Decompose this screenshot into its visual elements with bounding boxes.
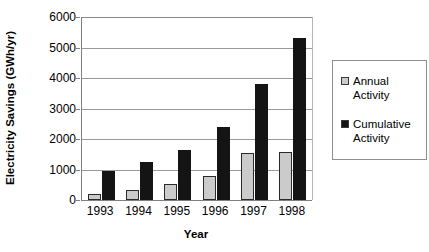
- legend-entry: CumulativeActivity: [341, 117, 427, 145]
- bar-group: [203, 17, 230, 200]
- y-tick-label: 6000: [2, 10, 76, 24]
- x-axis-tick-labels: 199319941995199619971998: [81, 204, 311, 222]
- y-tick-label: 4000: [2, 71, 76, 85]
- bar-group: [279, 17, 306, 200]
- bar-cumulative-1994: [140, 162, 153, 200]
- bar-annual-1998: [279, 152, 292, 200]
- legend-label: AnnualActivity: [353, 74, 389, 102]
- y-tick-mark: [76, 17, 80, 18]
- bar-group: [164, 17, 191, 200]
- bar-cumulative-1995: [178, 150, 191, 200]
- x-tick-label: 1996: [196, 204, 234, 218]
- x-tick-label: 1998: [273, 204, 311, 218]
- bar-cumulative-1998: [293, 38, 306, 200]
- y-tick-mark: [76, 200, 80, 201]
- legend-entry: AnnualActivity: [341, 74, 427, 102]
- bar-group: [241, 17, 268, 200]
- y-tick-mark: [76, 78, 80, 79]
- legend-swatch-icon: [341, 120, 349, 128]
- x-tick-label: 1994: [119, 204, 157, 218]
- bar-cumulative-1993: [102, 171, 115, 200]
- y-tick-mark: [76, 139, 80, 140]
- bar-chart: Electricity Savings (GWh/yr) 01000200030…: [0, 0, 429, 252]
- plot-area: [81, 17, 312, 201]
- bar-annual-1993: [88, 194, 101, 200]
- y-tick-label: 5000: [2, 41, 76, 55]
- legend-swatch-icon: [341, 77, 349, 85]
- bar-annual-1995: [164, 184, 177, 200]
- bars-layer: [82, 17, 312, 200]
- x-axis-title: Year: [81, 228, 311, 240]
- y-tick-mark: [76, 48, 80, 49]
- bar-group: [88, 17, 115, 200]
- x-tick-label: 1995: [158, 204, 196, 218]
- y-tick-mark: [76, 170, 80, 171]
- bar-annual-1997: [241, 153, 254, 200]
- y-axis-tick-labels: 0100020003000400050006000: [0, 17, 76, 200]
- bar-group: [126, 17, 153, 200]
- y-tick-label: 1000: [2, 163, 76, 177]
- y-tick-label: 0: [2, 193, 76, 207]
- legend-label: CumulativeActivity: [353, 117, 411, 145]
- y-tick-label: 2000: [2, 132, 76, 146]
- legend: AnnualActivityCumulativeActivity: [332, 60, 427, 160]
- y-tick-label: 3000: [2, 102, 76, 116]
- bar-annual-1994: [126, 190, 139, 200]
- x-tick-label: 1993: [81, 204, 119, 218]
- y-tick-mark: [76, 109, 80, 110]
- bar-annual-1996: [203, 176, 216, 200]
- x-tick-label: 1997: [234, 204, 272, 218]
- bar-cumulative-1997: [255, 84, 268, 201]
- bar-cumulative-1996: [217, 127, 230, 200]
- plot-right-edge: [312, 17, 313, 200]
